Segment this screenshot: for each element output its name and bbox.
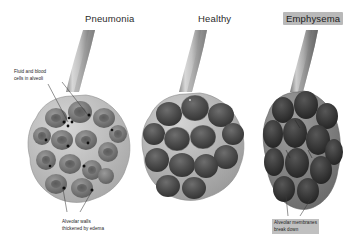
panel-title-emphysema: Emphysema bbox=[283, 12, 343, 25]
annotation-fluid-blood-cells: Fluid and blood cells in alveoli bbox=[14, 69, 46, 82]
alveoli-comparison-figure: Pneumonia Healthy Emphysema Fluid and bl… bbox=[0, 0, 349, 250]
illustration-canvas bbox=[0, 0, 349, 250]
specular-highlight bbox=[189, 99, 191, 101]
panel-title-pneumonia: Pneumonia bbox=[85, 13, 134, 24]
panel-healthy bbox=[142, 30, 244, 200]
annotation-membranes-break-down: Alveolar membranes break down bbox=[272, 219, 319, 234]
annotation-thickened-walls: Alveolar walls thickened by edema bbox=[62, 219, 104, 232]
panel-emphysema bbox=[263, 30, 343, 216]
panel-title-healthy: Healthy bbox=[198, 13, 231, 24]
panel-pneumonia bbox=[28, 30, 130, 212]
